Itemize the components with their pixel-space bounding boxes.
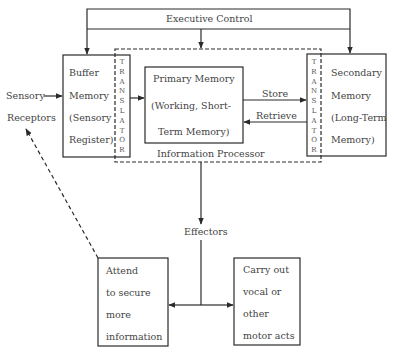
carry-line-3: other — [243, 309, 269, 319]
buffer-line-4: Register) — [69, 135, 113, 145]
attend-line-2: to secure — [106, 288, 151, 298]
attend-line-1: Attend — [106, 266, 138, 276]
carry-line-4: motor acts — [243, 331, 295, 341]
receptors-label: Receptors — [7, 113, 56, 123]
secondary-line-1: Secondary — [331, 68, 382, 78]
primary-line-3: Term Memory) — [158, 127, 229, 137]
buffer-line-1: Buffer — [69, 68, 99, 78]
retrieve-label: Retrieve — [256, 111, 297, 121]
secondary-line-3: (Long-Term — [331, 113, 387, 123]
left-translator-label: TRANSLATOR — [117, 58, 127, 156]
right-translator-label: TRANSLATOR — [309, 58, 319, 156]
buffer-line-3: (Sensory — [69, 113, 111, 123]
store-label: Store — [262, 89, 288, 99]
feedback-to-receptors-arrow — [26, 129, 98, 258]
executive-control-label: Executive Control — [166, 14, 252, 24]
primary-line-1: Primary Memory — [153, 74, 235, 84]
effectors-label: Effectors — [184, 227, 228, 237]
attend-line-4: information — [106, 332, 162, 342]
attend-line-3: more — [106, 310, 131, 320]
buffer-line-2: Memory — [69, 91, 109, 101]
information-processor-label: Information Processor — [157, 149, 265, 159]
carry-line-2: vocal or — [243, 287, 281, 297]
carry-line-1: Carry out — [243, 265, 289, 275]
secondary-line-2: Memory — [331, 91, 371, 101]
primary-line-2: (Working, Short- — [151, 101, 231, 111]
sensory-label: Sensory — [6, 91, 45, 101]
secondary-line-4: Memory) — [331, 135, 375, 145]
diagram-lines — [0, 0, 394, 354]
